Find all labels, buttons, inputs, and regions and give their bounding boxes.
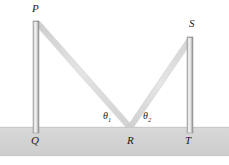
point-label-P: P <box>32 3 39 14</box>
point-label-R: R <box>127 135 134 146</box>
theta2-subscript: 2 <box>148 116 151 123</box>
reflection-diagram: P S Q R T θ1 θ2 <box>0 0 229 165</box>
theta1-subscript: 1 <box>108 116 111 123</box>
point-label-Q: Q <box>31 135 39 146</box>
point-label-S: S <box>189 18 195 29</box>
left-pole-PQ <box>33 21 39 133</box>
angle-label-theta1: θ1 <box>103 111 111 125</box>
angle-label-theta2: θ2 <box>143 111 151 125</box>
point-label-T: T <box>185 135 191 146</box>
reflected-light-ray <box>128 38 193 129</box>
right-pole-ST <box>187 37 193 133</box>
incident-light-ray <box>35 21 132 129</box>
